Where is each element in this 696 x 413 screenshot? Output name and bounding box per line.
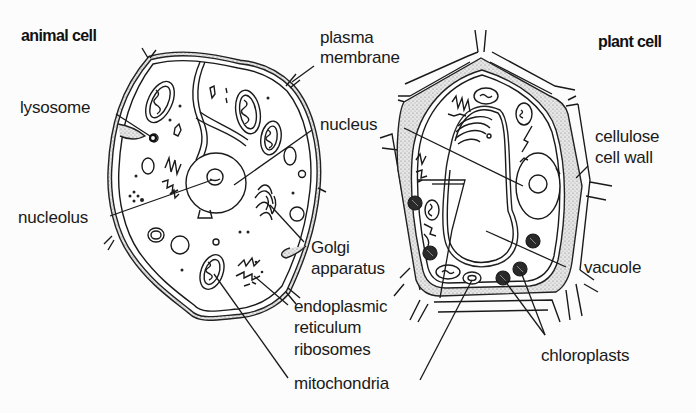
animal-cell-title: animal cell: [21, 27, 96, 45]
label-er-line2: reticulum: [294, 318, 361, 337]
label-er-line1: endoplasmic: [294, 297, 387, 316]
label-vacuole: vacuole: [584, 258, 641, 277]
mitochondrion: [425, 200, 439, 220]
label-cell-wall-line2: cell wall: [595, 148, 653, 167]
mitochondrion: [516, 103, 532, 125]
label-plasma-membrane-line2: membrane: [320, 48, 400, 67]
label-nucleus: nucleus: [320, 115, 377, 134]
animal-cell-drawing: [104, 48, 326, 319]
label-lysosome: lysosome: [20, 98, 90, 117]
animal-nucleolus: [207, 169, 223, 185]
label-ribosomes: ribosomes: [294, 340, 371, 359]
label-nucleolus: nucleolus: [18, 208, 88, 227]
label-chloroplasts: chloroplasts: [541, 346, 629, 365]
label-plasma-membrane-line1: plasma: [320, 28, 374, 47]
cell-comparison-diagram: animal cell plant cell lysosome nucleolu…: [0, 0, 696, 413]
label-golgi-line2: apparatus: [311, 259, 385, 278]
lysosome: [150, 135, 156, 141]
label-golgi-line1: Golgi: [311, 238, 350, 257]
label-mitochondria: mitochondria: [294, 374, 389, 393]
plant-cell-title: plant cell: [598, 33, 661, 51]
label-cell-wall-line1: cellulose: [595, 127, 659, 146]
plant-nucleolus: [529, 175, 547, 193]
